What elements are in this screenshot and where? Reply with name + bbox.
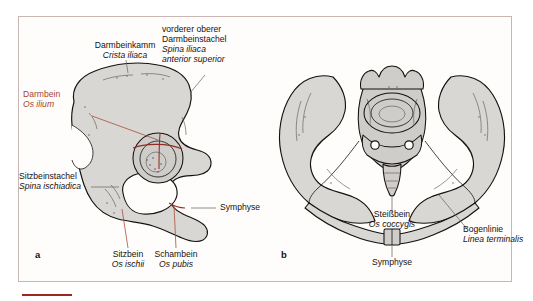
sacral-foramen-right: [405, 141, 413, 149]
label-spina-iliaca-anterior-superior: vorderer oberer Darmbeinstachel Spina il…: [162, 25, 226, 65]
panel-a-lateral-hip-bone: Darmbeinkamm Crista iliaca vorderer ober…: [19, 17, 271, 281]
coccyx: [383, 164, 401, 196]
label-os-pubis: Schambein Os pubis: [145, 250, 207, 270]
label-symphyse-a: Symphyse: [220, 203, 260, 213]
sacral-foramen-left: [371, 141, 379, 149]
caption-rule: [22, 294, 72, 296]
label-spina-ischiadica: Sitzbeinstachel Spina ischiadica: [19, 172, 81, 192]
leader-spina-iliaca-anterior-superior: [190, 75, 205, 93]
panel-letter-b: b: [281, 249, 287, 260]
sacral-promontory-processes: [360, 66, 423, 89]
panel-letter-a: a: [35, 249, 40, 260]
label-os-coccygis: Steißbein Os coccygis: [351, 210, 433, 230]
label-symphyse-b: Symphyse: [359, 258, 425, 268]
label-os-ilium: Darmbein Os ilium: [23, 90, 60, 110]
label-linea-terminalis: Bogenlinie Linea terminalis: [463, 225, 523, 245]
figure-frame: Darmbeinkamm Crista iliaca vorderer ober…: [18, 16, 512, 282]
acetabulum: [133, 133, 183, 183]
panel-b-pelvis-inlet-view: Steißbein Os coccygis Symphyse Bogenlini…: [271, 17, 513, 281]
